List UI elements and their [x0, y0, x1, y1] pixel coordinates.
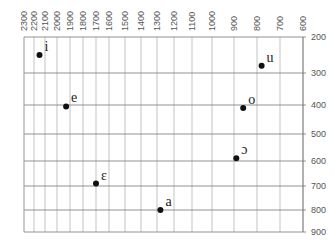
- y-tick-label: 800: [311, 205, 326, 215]
- x-tick-label: 2000: [52, 11, 62, 31]
- vowel-label: u: [267, 50, 274, 65]
- x-tick-label: 1500: [120, 11, 130, 31]
- point-marker: [233, 155, 239, 161]
- point-marker: [63, 103, 69, 109]
- point-marker: [37, 52, 43, 58]
- x-tick-label: 1600: [104, 11, 114, 31]
- vowel-point-i: i: [37, 39, 49, 58]
- vowel-point-ɔ: ɔ: [233, 142, 247, 161]
- point-marker: [93, 181, 99, 187]
- x-axis-ticks: 2300220021002000190018001700160015001400…: [19, 11, 308, 31]
- vowel-label: e: [71, 90, 77, 105]
- point-marker: [259, 63, 265, 69]
- x-tick-label: 2300: [19, 11, 29, 31]
- y-tick-label: 600: [311, 156, 326, 166]
- vowel-formant-chart: 2300220021002000190018001700160015001400…: [0, 0, 334, 246]
- x-tick-label: 2100: [40, 11, 50, 31]
- x-tick-label: 1700: [91, 11, 101, 31]
- vowel-label: ɛ: [101, 168, 107, 183]
- y-tick-label: 300: [311, 68, 326, 78]
- vowel-label: i: [45, 39, 49, 54]
- x-tick-label: 700: [275, 16, 285, 31]
- x-tick-label: 1400: [136, 11, 146, 31]
- x-tick-label: 1800: [78, 11, 88, 31]
- vowel-label: a: [165, 194, 172, 209]
- vowel-label: ɔ: [241, 142, 247, 157]
- y-axis-ticks: 200300400500600700800900: [311, 32, 326, 237]
- x-tick-label: 1100: [187, 12, 197, 31]
- x-tick-label: 1900: [65, 11, 75, 31]
- x-tick-label: 600: [298, 16, 308, 31]
- vowel-point-o: o: [240, 92, 255, 111]
- x-tick-label: 900: [229, 16, 239, 31]
- x-tick-label: 2200: [29, 11, 39, 31]
- vowel-point-u: u: [259, 50, 274, 69]
- vowel-label: o: [248, 92, 255, 107]
- point-marker: [240, 105, 246, 111]
- x-tick-label: 1300: [152, 11, 162, 31]
- x-tick-label: 1000: [207, 11, 217, 31]
- x-tick-label: 1200: [169, 11, 179, 31]
- y-tick-label: 900: [311, 227, 326, 237]
- vowel-point-ɛ: ɛ: [93, 168, 107, 187]
- x-tick-label: 800: [252, 16, 262, 31]
- y-tick-label: 700: [311, 181, 326, 191]
- data-points: ieɛaɔou: [37, 39, 274, 213]
- y-tick-label: 500: [311, 129, 326, 139]
- y-tick-label: 200: [311, 32, 326, 42]
- y-tick-label: 400: [311, 100, 326, 110]
- point-marker: [157, 207, 163, 213]
